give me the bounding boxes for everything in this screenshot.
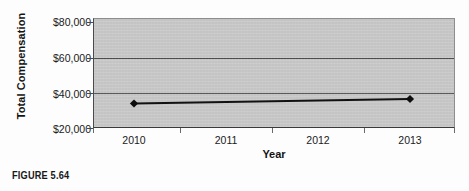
figure-caption: FIGURE 5.64 — [12, 170, 69, 181]
y-tick-label-20000: $20,000 — [33, 123, 91, 135]
x-tick-mark-2 — [272, 128, 273, 133]
x-tick-mark-1 — [180, 128, 181, 133]
gridline-40000 — [94, 93, 454, 94]
x-axis-title: Year — [93, 148, 455, 160]
y-axis-tick-labels: $80,000 $60,000 $40,000 $20,000 — [31, 0, 91, 160]
paper-grain-overlay — [94, 19, 454, 127]
y-tick-label-60000: $60,000 — [33, 52, 91, 64]
figure-container: Total Compensation $80,000 $60,000 $40,0… — [0, 0, 469, 191]
line-chart: Total Compensation $80,000 $60,000 $40,0… — [0, 0, 469, 160]
y-tick-label-40000: $40,000 — [33, 88, 91, 100]
gridline-60000 — [94, 58, 454, 59]
x-tick-mark-start — [93, 128, 94, 133]
x-tick-label-2011: 2011 — [196, 134, 256, 146]
plot-area — [93, 18, 455, 128]
y-axis-title: Total Compensation — [15, 6, 31, 126]
x-tick-mark-end — [454, 128, 455, 133]
x-tick-label-2012: 2012 — [288, 134, 348, 146]
x-tick-mark-3 — [364, 128, 365, 133]
x-tick-label-2010: 2010 — [104, 134, 164, 146]
y-tick-label-80000: $80,000 — [33, 16, 91, 28]
x-tick-label-2013: 2013 — [380, 134, 440, 146]
